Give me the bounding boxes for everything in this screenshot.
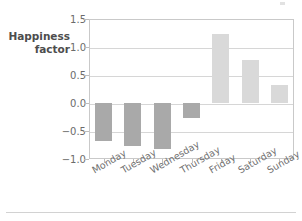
- bar-tuesday: [124, 103, 141, 146]
- y-tick-label: 1.5: [46, 14, 86, 25]
- bar-chart-figure: Happiness factor 1.51.00.50.0−0.5−1.0 Mo…: [0, 0, 302, 221]
- y-tick-label: 0.0: [46, 98, 86, 109]
- bar-sunday: [271, 85, 288, 103]
- y-tick-mark: [84, 159, 89, 160]
- bar-wednesday: [154, 103, 171, 149]
- y-tick-label: −0.5: [46, 126, 86, 137]
- y-tick-label: 1.0: [46, 42, 86, 53]
- bar-friday: [212, 34, 229, 103]
- bar-thursday: [183, 103, 200, 118]
- bar-monday: [95, 103, 112, 141]
- y-tick-label: −1.0: [46, 154, 86, 165]
- footer-divider: [6, 212, 296, 213]
- bar-saturday: [242, 60, 259, 103]
- bars-group: [89, 19, 294, 159]
- y-tick-label: 0.5: [46, 70, 86, 81]
- page-corner-mark: [280, 2, 285, 5]
